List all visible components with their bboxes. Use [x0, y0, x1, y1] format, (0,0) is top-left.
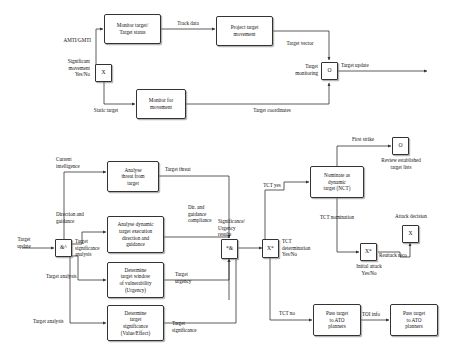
label-review-established-target-lists: Review established target lists — [365, 157, 437, 170]
node-x-initial-attack[interactable]: X* — [360, 243, 377, 261]
node-pass-target-ato-planners-1[interactable]: Pass target to ATO planners — [313, 304, 361, 336]
label-target-urgency: Target urgency — [175, 271, 215, 284]
label-current-intelligence: Current intelligence — [56, 156, 106, 169]
label-reattack-reco: Reattack reco — [379, 252, 433, 259]
node-analyse-threat[interactable]: Analyse threat from target — [107, 161, 159, 192]
label-attack-decision: Attack decision — [380, 213, 442, 220]
node-nominate-dynamic-target-label: Nominate as dynamic target (NCT) — [324, 172, 351, 192]
node-project-target-movement[interactable]: Project target movement — [216, 16, 273, 46]
label-target-monitoring: Target monitoring — [271, 63, 318, 76]
label-target-threat: Target threat — [165, 166, 221, 173]
label-tct-yes: TCT yes — [252, 182, 292, 189]
label-target-update-out: Target update — [341, 62, 403, 69]
node-o-target-monitoring-label: O — [327, 67, 331, 74]
node-pass-target-ato-planners-2-label: Pass target to ATO planners — [403, 310, 425, 330]
label-tct-no: TCT no — [266, 310, 308, 317]
node-o-target-monitoring[interactable]: O — [321, 62, 338, 80]
label-tct-nomination: TCT nomination — [308, 214, 366, 221]
node-x-initial-attack-label: X* — [365, 248, 372, 255]
node-o-review-target-lists-label: O — [398, 142, 402, 149]
node-determine-window-vulnerability[interactable]: Determine target window of vulnerability… — [107, 262, 164, 298]
node-nominate-dynamic-target[interactable]: Nominate as dynamic target (NCT) — [310, 166, 364, 198]
node-determine-target-significance-label: Determine target significance (Value/Eff… — [121, 310, 150, 337]
label-toi-info: TOI info — [353, 311, 389, 318]
label-amti-gmti: AMTI/GMTI — [27, 37, 91, 44]
node-analyse-threat-label: Analyse threat from target — [121, 167, 144, 187]
label-target-analysis-2: Target analysis — [33, 318, 91, 325]
node-monitor-target-label: Monitor target/ Target status — [117, 22, 148, 35]
label-target-vector: Target vector — [272, 40, 328, 47]
label-target-significance-out: Target significance — [172, 320, 220, 333]
node-project-target-movement-label: Project target movement — [231, 24, 259, 37]
label-target-coordinates: Target coordinates — [233, 107, 311, 114]
node-x-significant-movement[interactable]: X — [95, 64, 112, 82]
node-star-and-junction-label: *& — [226, 245, 233, 252]
label-static-target: Static target — [78, 107, 134, 114]
node-x-significant-movement-label: X — [101, 69, 105, 76]
label-track-data: Track data — [161, 20, 215, 27]
node-x-attack-decision-label: X — [408, 230, 412, 237]
node-and-junction[interactable]: &^ — [55, 239, 72, 257]
label-significance-urgency-results: Significance/ Urgency results — [218, 218, 265, 238]
connector-layer — [0, 0, 460, 354]
node-monitor-for-movement-label: Monitor for movement — [149, 97, 173, 110]
node-pass-target-ato-planners-2[interactable]: Pass target to ATO planners — [390, 304, 438, 336]
node-x-tct-determination[interactable]: X* — [262, 239, 279, 258]
node-and-junction-label: &^ — [60, 244, 67, 251]
node-monitor-for-movement[interactable]: Monitor for movement — [136, 89, 186, 119]
label-tct-determination: TCT determination Yes/No — [282, 238, 330, 258]
node-monitor-target[interactable]: Monitor target/ Target status — [104, 14, 161, 44]
node-o-review-target-lists[interactable]: O — [392, 137, 409, 155]
label-target-significance-analysis: Target significance analysis — [75, 238, 123, 258]
label-target-analysis-1: Target analysis — [46, 273, 104, 280]
node-determine-window-vulnerability-label: Determine target window of vulnerability… — [119, 267, 151, 294]
diagram-canvas: Monitor target/ Target status Project ta… — [0, 0, 460, 354]
label-target-update-in: Target update — [0, 236, 48, 249]
label-direction-and-guidance: Direction and guidance — [56, 211, 106, 224]
node-determine-target-significance[interactable]: Determine target significance (Value/Eff… — [107, 305, 164, 341]
node-star-and-junction[interactable]: *& — [221, 239, 238, 259]
node-x-attack-decision[interactable]: X — [402, 225, 419, 243]
label-first-strike: First strike — [336, 136, 390, 143]
node-pass-target-ato-planners-1-label: Pass target to ATO planners — [326, 310, 348, 330]
label-initial-attack: Initial attack Yes/No — [338, 263, 400, 276]
label-significant-movement: Significant movement Yes/No — [22, 58, 90, 78]
node-x-tct-determination-label: X* — [267, 245, 274, 252]
